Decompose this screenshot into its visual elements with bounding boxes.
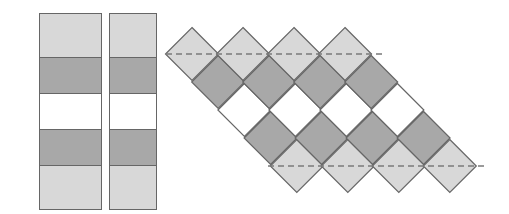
on-point-strip-set [0,0,509,214]
